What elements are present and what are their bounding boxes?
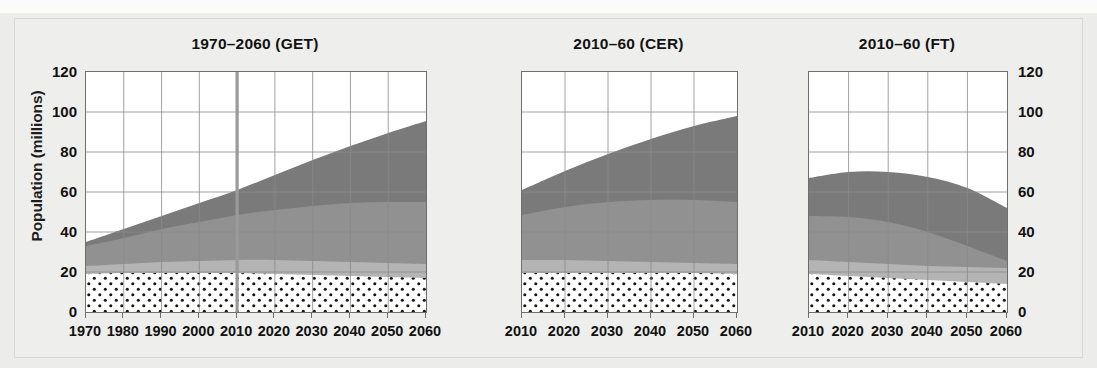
y-tick-label: 60 <box>1018 183 1035 200</box>
x-tick-label: 2050 <box>371 323 403 339</box>
x-tick-label: 2010 <box>792 323 824 339</box>
figure-root: Population (millions) 020406080100120 02… <box>0 0 1097 368</box>
stacked-area-svg <box>809 72 1007 312</box>
x-tick-label: 2050 <box>950 323 982 339</box>
x-tick-label: 2060 <box>409 323 441 339</box>
area-band-dotted <box>522 273 737 312</box>
x-tick-label: 1990 <box>144 323 176 339</box>
x-tick-mark <box>160 312 161 318</box>
x-tick-mark <box>926 312 927 318</box>
x-tick-mark <box>847 312 848 318</box>
panel-title-cer: 2010–60 (CER) <box>521 35 736 53</box>
x-tick-mark <box>349 312 350 318</box>
plot-area-get <box>85 71 427 313</box>
figure-panel-area: Population (millions) 020406080100120 02… <box>14 18 1083 358</box>
x-tick-mark <box>387 312 388 318</box>
y-tick-label: 120 <box>52 63 77 80</box>
x-tick-label: 2030 <box>591 323 623 339</box>
x-tick-mark <box>311 312 312 318</box>
x-tick-label: 2030 <box>296 323 328 339</box>
y-tick-label: 0 <box>69 303 77 320</box>
area-band-dotted <box>86 273 426 312</box>
x-tick-label: 2050 <box>677 323 709 339</box>
panel-title-get: 1970–2060 (GET) <box>85 35 425 53</box>
x-tick-label: 2020 <box>258 323 290 339</box>
x-tick-mark <box>236 312 237 318</box>
x-tick-mark <box>966 312 967 318</box>
y-tick-label: 40 <box>1018 223 1035 240</box>
x-tick-mark <box>607 312 608 318</box>
x-tick-mark <box>736 312 737 318</box>
x-tick-mark <box>887 312 888 318</box>
x-tick-mark <box>273 312 274 318</box>
panel-title-ft: 2010–60 (FT) <box>808 35 1006 53</box>
x-tick-mark <box>693 312 694 318</box>
x-tick-mark <box>808 312 809 318</box>
x-tick-label: 2020 <box>831 323 863 339</box>
x-tick-mark <box>564 312 565 318</box>
x-tick-label: 2040 <box>333 323 365 339</box>
y-tick-label: 0 <box>1018 303 1026 320</box>
x-tick-mark <box>122 312 123 318</box>
x-tick-label: 2000 <box>182 323 214 339</box>
x-tick-mark <box>425 312 426 318</box>
x-tick-label: 2030 <box>871 323 903 339</box>
x-tick-mark <box>198 312 199 318</box>
plot-area-cer <box>521 71 738 313</box>
y-axis-label: Population (millions) <box>28 66 46 266</box>
x-tick-label: 1980 <box>107 323 139 339</box>
x-tick-label: 2040 <box>634 323 666 339</box>
x-tick-mark <box>521 312 522 318</box>
y-tick-label: 80 <box>1018 143 1035 160</box>
y-tick-label: 60 <box>60 183 77 200</box>
x-tick-mark <box>1006 312 1007 318</box>
x-tick-label: 2040 <box>911 323 943 339</box>
y-tick-label: 120 <box>1018 63 1043 80</box>
y-tick-label: 20 <box>60 263 77 280</box>
y-tick-label: 100 <box>1018 103 1043 120</box>
cropped-caption-strip <box>0 0 1097 13</box>
x-tick-label: 2060 <box>990 323 1022 339</box>
x-tick-label: 2020 <box>548 323 580 339</box>
y-tick-label: 20 <box>1018 263 1035 280</box>
stacked-area-svg <box>522 72 737 312</box>
plot-area-ft <box>808 71 1008 313</box>
x-tick-mark <box>650 312 651 318</box>
stacked-area-svg <box>86 72 426 312</box>
x-tick-mark <box>85 312 86 318</box>
x-tick-label: 1970 <box>69 323 101 339</box>
y-tick-label: 40 <box>60 223 77 240</box>
x-tick-label: 2060 <box>720 323 752 339</box>
x-tick-label: 2010 <box>505 323 537 339</box>
y-tick-label: 80 <box>60 143 77 160</box>
y-tick-label: 100 <box>52 103 77 120</box>
x-tick-label: 2010 <box>220 323 252 339</box>
